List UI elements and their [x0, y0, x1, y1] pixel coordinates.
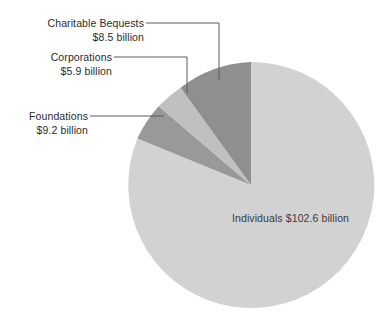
callout-corporations-value: $5.9 billion [51, 65, 112, 79]
slice-label-individuals-value: $102.6 billion [286, 212, 349, 224]
slice-label-individuals: Individuals $102.6 billion [232, 212, 338, 226]
pie-chart-canvas [0, 0, 384, 319]
leader-line-corporations [114, 57, 187, 93]
leader-line-charitable-bequests [146, 23, 219, 80]
callout-foundations: Foundations $9.2 billion [29, 110, 88, 137]
callout-charitable-bequests: Charitable Bequests $8.5 billion [48, 17, 144, 44]
callout-charitable-bequests-category: Charitable Bequests [48, 17, 144, 31]
callout-foundations-value: $9.2 billion [29, 124, 88, 138]
callout-charitable-bequests-value: $8.5 billion [48, 31, 144, 45]
callout-foundations-category: Foundations [29, 110, 88, 124]
pie-slice-individuals[interactable] [128, 62, 374, 308]
callout-corporations-category: Corporations [51, 51, 112, 65]
slice-label-individuals-category: Individuals [232, 212, 283, 224]
callout-corporations: Corporations $5.9 billion [51, 51, 112, 78]
pie-chart-figure: Charitable Bequests $8.5 billion Corpora… [0, 0, 384, 319]
